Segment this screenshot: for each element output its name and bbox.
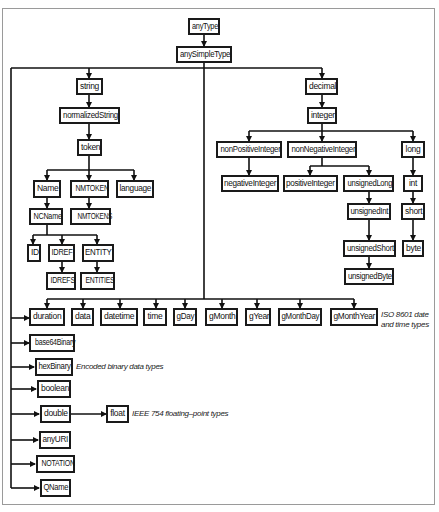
- node-gMonth: gMonth: [205, 308, 238, 326]
- node-base64Binary: base64Binary: [29, 334, 75, 352]
- node-ID: ID: [27, 244, 41, 262]
- node-integer: integer: [307, 107, 337, 124]
- node-QName: QName: [40, 479, 71, 497]
- note-iso8601-line1: ISO 8601 date: [381, 310, 429, 320]
- node-IDREFS: IDREFS: [46, 272, 76, 290]
- node-NMTOKENS: NMTOKENS: [70, 208, 111, 225]
- node-decimal: decimal: [305, 78, 338, 95]
- node-gMonthYear: gMonthYear: [330, 308, 378, 326]
- node-datetime: datetime: [100, 308, 138, 326]
- node-boolean: boolean: [37, 380, 71, 398]
- node-language: language: [116, 180, 154, 198]
- node-long: long: [401, 141, 425, 158]
- node-positiveInteger: positiveInteger: [283, 175, 338, 192]
- node-duration: duration: [29, 308, 65, 326]
- node-byte: byte: [402, 240, 424, 257]
- note-iso8601: ISO 8601 date and time types: [381, 310, 429, 330]
- note-binary: Encoded binary data types: [76, 362, 163, 372]
- node-gYear: gYear: [245, 308, 271, 326]
- note-iso8601-line2: and time types: [381, 320, 429, 330]
- node-negativeInteger: negativeInteger: [221, 175, 279, 192]
- node-nonPositiveInteger: nonPositiveInteger: [216, 141, 282, 158]
- node-Name: Name: [33, 180, 61, 198]
- node-anyType: anyType: [188, 18, 220, 35]
- node-short: short: [401, 203, 425, 220]
- node-token: token: [77, 139, 102, 156]
- node-ENTITIES: ENTITIES: [80, 272, 115, 290]
- node-unsignedLong: unsignedLong: [343, 175, 394, 192]
- node-NOTATION: NOTATION: [36, 455, 75, 473]
- node-hexBinary: hexBinary: [35, 358, 73, 376]
- node-NCName: NCName: [29, 208, 63, 225]
- node-unsignedShort: unsignedShort: [343, 240, 396, 257]
- node-NMTOKEN: NMTOKEN: [70, 180, 109, 198]
- node-int: int: [403, 175, 423, 192]
- node-ENTITY: ENTITY: [82, 244, 114, 262]
- node-time: time: [143, 308, 167, 326]
- node-anyURI: anyURI: [39, 431, 71, 449]
- node-float: float: [106, 405, 129, 423]
- node-IDREF: IDREF: [48, 244, 75, 262]
- node-unsignedInt: unsignedInt: [347, 203, 391, 220]
- node-anySimpleType: anySimpleType: [176, 46, 232, 63]
- node-normalizedString: normalizedString: [59, 107, 120, 124]
- node-gMonthDay: gMonthDay: [278, 308, 322, 326]
- node-unsignedByte: unsignedByte: [344, 268, 394, 285]
- note-ieee754: IEEE 754 floating–point types: [132, 409, 228, 419]
- node-gDay: gDay: [173, 308, 197, 326]
- node-double: double: [40, 405, 71, 423]
- node-string: string: [76, 78, 103, 95]
- node-nonNegativeInteger: nonNegativeInteger: [287, 141, 357, 158]
- node-data: data: [71, 308, 94, 326]
